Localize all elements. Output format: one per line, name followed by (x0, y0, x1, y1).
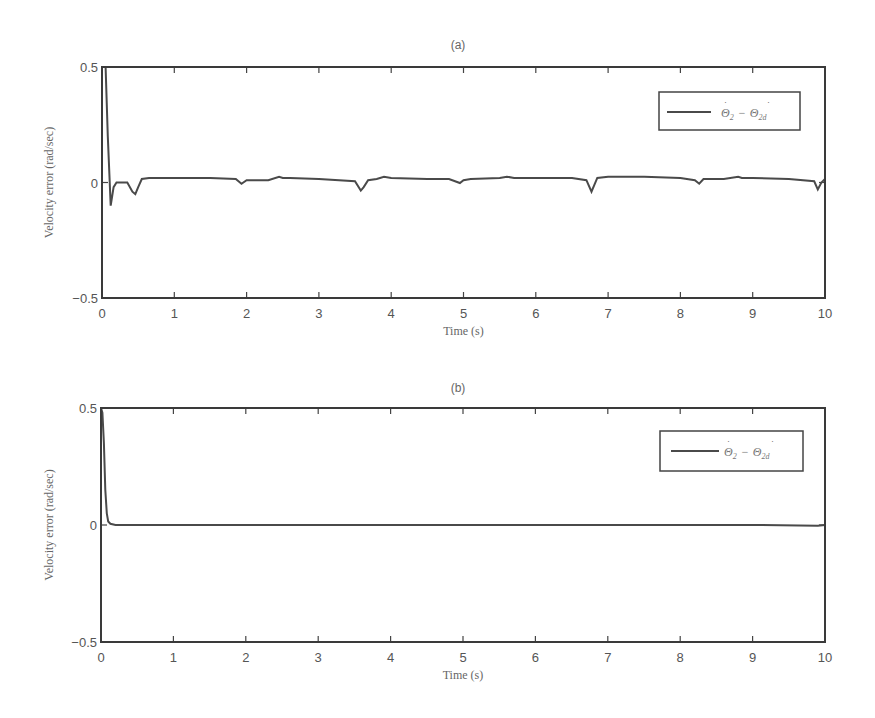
plot-b-legend: Θ2−Θ2d · · (660, 431, 803, 471)
plot-b-title: (b) (451, 381, 466, 395)
x-tick-label: 2 (242, 650, 249, 665)
x-tick-label: 9 (749, 650, 756, 665)
y-tick-label: −0.5 (71, 635, 97, 650)
x-tick-label: 0 (97, 650, 104, 665)
x-tick-label: 4 (388, 306, 395, 321)
x-tick-label: 8 (677, 306, 684, 321)
plot-a-title: (a) (451, 38, 466, 52)
y-tick-label: 0.5 (79, 401, 97, 416)
y-tick-label: 0 (90, 518, 97, 533)
x-tick-label: 1 (171, 306, 178, 321)
plot-b-x-axis-title: Time (s) (443, 668, 484, 682)
legend-dot-accent-2: · (767, 97, 770, 107)
legend-dot-accent-1: · (727, 436, 730, 446)
y-tick-label: 0.5 (80, 60, 98, 75)
x-tick-label: 6 (532, 650, 539, 665)
x-tick-label: 1 (170, 650, 177, 665)
x-tick-label: 10 (818, 306, 832, 321)
plot-a-x-axis-title: Time (s) (443, 324, 484, 338)
x-tick-label: 7 (604, 306, 611, 321)
x-tick-label: 8 (677, 650, 684, 665)
plot-a-y-axis-title: Velocity error (rad/sec) (42, 127, 56, 238)
y-tick-label: 0 (91, 176, 98, 191)
legend-dot-accent-1: · (724, 97, 727, 107)
x-tick-label: 9 (749, 306, 756, 321)
plot-b-y-axis-title: Velocity error (rad/sec) (42, 469, 56, 580)
legend-dot-accent-2: · (771, 436, 774, 446)
figure: (a) 0.50−0.5 012345678910 Time (s) Veloc… (0, 0, 875, 718)
x-tick-label: 3 (315, 650, 322, 665)
x-tick-label: 3 (315, 306, 322, 321)
x-tick-label: 5 (459, 650, 466, 665)
x-tick-label: 6 (532, 306, 539, 321)
x-tick-label: 2 (243, 306, 250, 321)
plot-b: (b) 0.50−0.5 012345678910 Time (s) Veloc… (42, 381, 832, 682)
x-tick-label: 4 (387, 650, 394, 665)
x-tick-label: 0 (98, 306, 105, 321)
x-tick-label: 7 (604, 650, 611, 665)
plot-a: (a) 0.50−0.5 012345678910 Time (s) Veloc… (42, 38, 832, 338)
x-tick-label: 5 (460, 306, 467, 321)
plot-a-series-line (102, 67, 825, 206)
y-tick-label: −0.5 (72, 291, 98, 306)
plot-a-legend: Θ2−Θ2d · · (659, 92, 800, 130)
x-tick-label: 10 (818, 650, 832, 665)
